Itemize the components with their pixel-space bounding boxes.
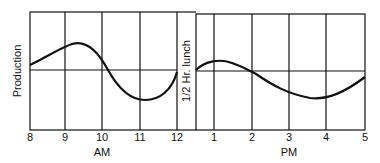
svg-text:8: 8 <box>27 131 33 143</box>
svg-text:4: 4 <box>323 131 329 143</box>
svg-text:12: 12 <box>171 131 183 143</box>
pm-tick-labels: 1 2 3 4 5 <box>211 131 368 143</box>
am-label: AM <box>94 146 111 158</box>
svg-text:2: 2 <box>249 131 255 143</box>
svg-text:10: 10 <box>96 131 108 143</box>
pm-panel <box>196 14 365 130</box>
svg-text:3: 3 <box>286 131 292 143</box>
svg-text:5: 5 <box>362 131 368 143</box>
am-production-curve <box>30 43 177 100</box>
pm-production-curve <box>196 61 365 99</box>
svg-text:9: 9 <box>62 131 68 143</box>
svg-text:11: 11 <box>134 131 145 143</box>
svg-text:1: 1 <box>211 131 217 143</box>
am-panel <box>30 12 177 130</box>
am-tick-labels: 8 9 10 11 12 <box>27 131 183 143</box>
production-chart: Production 1/2 Hr. lunch 8 9 10 11 12 AM… <box>0 0 380 163</box>
pm-label: PM <box>281 146 298 158</box>
lunch-label: 1/2 Hr. lunch <box>180 40 192 102</box>
y-axis-label: Production <box>11 45 23 98</box>
